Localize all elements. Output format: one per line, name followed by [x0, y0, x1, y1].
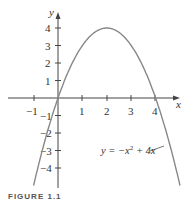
x-tick-label: 1 [79, 105, 85, 117]
y-tick-label: 4 [45, 22, 51, 34]
y-tick-label: 3 [45, 40, 51, 52]
x-axis-label: x [175, 98, 181, 110]
y-tick-label: 1 [45, 75, 51, 87]
y-tick-label: −4 [40, 162, 52, 174]
equation-label: y = −x2 + 4x [100, 144, 156, 156]
figure-caption: FIGURE 1.1 [8, 192, 62, 200]
y-axis-arrow-icon [56, 12, 61, 19]
y-axis-label: y [48, 6, 54, 18]
x-tick-label: 3 [128, 105, 134, 117]
x-tick-label: 4 [152, 105, 158, 117]
parabola-chart: −1 1 2 3 4 4 3 2 1 −1 −2 −3 −4 y x y = −… [0, 0, 191, 200]
y-tick-label: −1 [40, 110, 52, 122]
x-tick-label: 2 [104, 105, 110, 117]
y-tick-label: 2 [45, 57, 51, 69]
x-tick-label: −1 [26, 105, 38, 117]
